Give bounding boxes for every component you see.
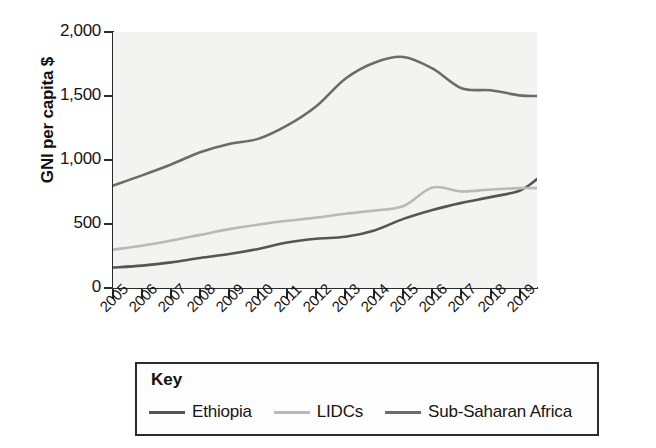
y-axis-tick-label: 1,500 (5, 85, 101, 105)
y-axis-tick-label: 0 (5, 277, 101, 297)
series-line-lidcs (113, 187, 537, 250)
legend-item[interactable]: LIDCs (274, 402, 363, 422)
y-axis-tick-label: 2,000 (5, 21, 101, 41)
y-axis-tick-mark (104, 287, 113, 289)
legend-title: Key (151, 370, 182, 390)
y-axis-tick-mark (104, 159, 113, 161)
y-axis-tick-mark (104, 223, 113, 225)
y-axis-tick-labels: 2,0001,5001,0005000 (0, 0, 101, 448)
legend-line-swatch-icon (385, 411, 421, 414)
y-axis-tick-label: 1,000 (5, 149, 101, 169)
legend-item-label: Ethiopia (192, 402, 252, 422)
y-axis-tick-label: 500 (5, 213, 101, 233)
plot-area (113, 32, 537, 288)
legend-item[interactable]: Ethiopia (149, 402, 252, 422)
legend-item[interactable]: Sub-Saharan Africa (385, 402, 572, 422)
y-axis-tick-mark (104, 31, 113, 33)
legend-items: EthiopiaLIDCsSub-Saharan Africa (149, 402, 589, 422)
series-line-ethiopia (113, 179, 537, 267)
chart-figure: GNI per capita $ 2,0001,5001,0005000 200… (0, 0, 656, 448)
y-axis-tick-mark (104, 95, 113, 97)
series-lines (113, 32, 537, 288)
legend-box: Key EthiopiaLIDCsSub-Saharan Africa (135, 362, 599, 436)
legend-line-swatch-icon (149, 411, 185, 414)
legend-item-label: LIDCs (317, 402, 363, 422)
legend-item-label: Sub-Saharan Africa (428, 402, 572, 422)
legend-line-swatch-icon (274, 411, 310, 414)
series-line-sub-saharan-africa (113, 57, 537, 186)
